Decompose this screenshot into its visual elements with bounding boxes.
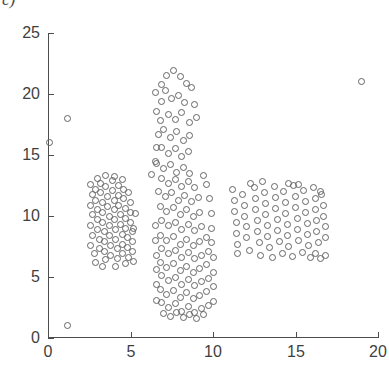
data-point xyxy=(261,189,268,196)
y-axis-line xyxy=(48,33,49,339)
data-point xyxy=(299,249,306,256)
data-point xyxy=(196,209,203,216)
data-point xyxy=(279,250,286,257)
data-point xyxy=(178,109,185,116)
data-point xyxy=(254,217,261,224)
data-point xyxy=(94,226,101,233)
data-point xyxy=(188,198,195,205)
data-point xyxy=(155,188,162,195)
data-point xyxy=(181,192,188,199)
data-point xyxy=(165,180,172,187)
data-point xyxy=(163,72,170,79)
data-point xyxy=(196,292,203,299)
data-point xyxy=(130,225,137,232)
data-point xyxy=(195,194,202,201)
data-point xyxy=(177,211,184,218)
data-point xyxy=(285,180,292,187)
data-point xyxy=(172,116,179,123)
y-tick xyxy=(49,216,54,217)
data-point xyxy=(271,183,278,190)
data-point xyxy=(181,99,188,106)
data-point xyxy=(129,248,136,255)
data-point xyxy=(165,304,172,311)
x-tick-label: 15 xyxy=(276,344,316,360)
y-tick-label: 25 xyxy=(22,25,40,41)
data-point xyxy=(358,78,365,85)
panel-label: c) xyxy=(2,0,15,9)
data-point xyxy=(183,236,190,243)
data-point xyxy=(317,188,324,195)
data-point xyxy=(205,275,212,282)
data-point xyxy=(112,263,119,270)
data-point xyxy=(259,178,266,185)
data-point xyxy=(178,153,185,160)
data-point xyxy=(262,211,269,218)
data-point xyxy=(229,186,236,193)
data-point xyxy=(170,204,177,211)
data-point xyxy=(152,222,159,229)
data-point xyxy=(294,226,301,233)
data-point xyxy=(266,244,273,251)
x-tick xyxy=(296,332,297,337)
data-point xyxy=(198,278,205,285)
y-tick xyxy=(49,277,54,278)
data-point xyxy=(111,173,118,180)
data-point xyxy=(177,267,184,274)
data-point xyxy=(46,139,53,146)
data-point xyxy=(313,217,320,224)
data-point xyxy=(173,128,180,135)
data-point xyxy=(210,269,217,276)
data-point xyxy=(148,171,155,178)
data-point xyxy=(302,209,309,216)
plot-area: 0510152025 05101520 xyxy=(48,33,378,338)
data-point xyxy=(163,264,170,271)
data-point xyxy=(206,195,213,202)
data-point xyxy=(172,176,179,183)
data-point xyxy=(153,108,160,115)
data-point xyxy=(152,237,159,244)
data-point xyxy=(315,239,322,246)
data-point xyxy=(170,67,177,74)
data-point xyxy=(193,315,200,322)
data-point xyxy=(165,222,172,229)
data-point xyxy=(233,219,240,226)
data-point xyxy=(208,239,215,246)
x-tick xyxy=(378,332,379,337)
data-point xyxy=(165,150,172,157)
data-point xyxy=(180,164,187,171)
data-point xyxy=(231,197,238,204)
data-point xyxy=(104,203,111,210)
data-point xyxy=(186,132,193,139)
data-point xyxy=(243,234,250,241)
x-axis-line xyxy=(48,337,379,338)
data-point xyxy=(285,243,292,250)
data-point xyxy=(170,287,177,294)
x-tick-label: 10 xyxy=(193,344,233,360)
data-point xyxy=(87,242,94,249)
data-point xyxy=(272,194,279,201)
data-point xyxy=(304,231,311,238)
data-point xyxy=(172,145,179,152)
data-point xyxy=(284,232,291,239)
data-point xyxy=(158,144,165,151)
data-point xyxy=(165,250,172,257)
data-point xyxy=(125,189,132,196)
data-point xyxy=(231,208,238,215)
data-point xyxy=(262,200,269,207)
data-point xyxy=(196,238,203,245)
data-point xyxy=(254,228,261,235)
data-point xyxy=(313,228,320,235)
data-point xyxy=(200,172,207,179)
data-point xyxy=(246,247,253,254)
data-point xyxy=(289,253,296,260)
data-point xyxy=(294,215,301,222)
data-point xyxy=(282,199,289,206)
data-point xyxy=(64,322,71,329)
data-point xyxy=(203,261,210,268)
data-point xyxy=(119,176,126,183)
data-point xyxy=(322,252,329,259)
data-point xyxy=(252,206,259,213)
data-point xyxy=(175,92,182,99)
y-tick xyxy=(49,33,54,34)
data-point xyxy=(269,254,276,261)
